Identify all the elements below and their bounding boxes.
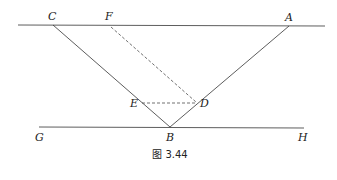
- diagram-canvas: C F A E D G B H 图 3.44: [0, 0, 337, 180]
- label-d: D: [199, 97, 209, 110]
- top-line: [18, 25, 325, 26]
- label-c: C: [48, 10, 57, 23]
- figure-caption: 图 3.44: [152, 149, 187, 160]
- segment-ba: [170, 26, 289, 127]
- line-gh: [39, 127, 304, 128]
- geometry-figure: C F A E D G B H 图 3.44: [0, 0, 337, 180]
- segment-cb: [53, 25, 170, 127]
- label-a: A: [284, 11, 293, 24]
- label-b: B: [165, 131, 174, 144]
- label-g: G: [35, 131, 44, 144]
- dashed-segment-fd: [111, 27, 196, 102]
- label-e: E: [129, 97, 138, 110]
- label-h: H: [297, 131, 308, 144]
- label-f: F: [104, 10, 113, 23]
